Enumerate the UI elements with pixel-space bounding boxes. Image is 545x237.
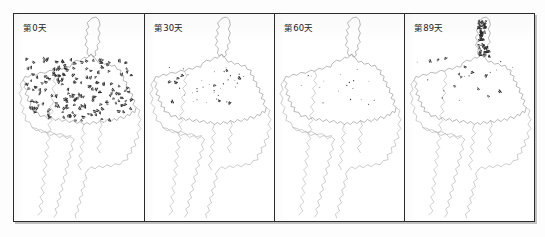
map-marker (496, 70, 497, 71)
map-marker (85, 67, 89, 71)
map-marker (350, 99, 351, 100)
map-marker (100, 107, 105, 112)
map-marker (444, 56, 448, 60)
marker-cluster (167, 67, 244, 105)
map-marker (27, 87, 30, 89)
map-marker (80, 81, 82, 84)
map-marker (72, 66, 76, 70)
map-marker (81, 116, 85, 119)
map-marker (197, 91, 198, 92)
map-marker (32, 89, 35, 92)
map-marker (30, 79, 32, 82)
map-marker (62, 106, 67, 111)
map-marker (196, 88, 197, 89)
map-marker (33, 101, 36, 103)
map-marker (184, 95, 185, 96)
map-marker (89, 76, 92, 80)
map-marker (124, 89, 127, 92)
map-panel: 第89天 (404, 14, 534, 221)
map-panel: 第30天 (144, 14, 274, 221)
map-marker (129, 98, 134, 102)
map-marker (346, 85, 347, 86)
map-marker (484, 73, 488, 78)
map-marker (36, 75, 39, 79)
map-marker (453, 85, 456, 88)
map-marker (173, 81, 177, 85)
map-marker (44, 80, 48, 83)
marker-cluster (24, 57, 133, 123)
map-panel: 第0天 (14, 14, 144, 221)
map-marker (458, 73, 460, 76)
map-marker (112, 97, 115, 99)
map-marker (100, 118, 103, 120)
map-marker (111, 88, 115, 93)
map-marker (353, 80, 354, 81)
map-marker (512, 67, 513, 68)
map-marker (417, 62, 418, 63)
map-marker (201, 80, 202, 81)
river-group (293, 71, 362, 215)
map-marker (109, 93, 112, 97)
figure-frame: 第0天 (13, 13, 535, 222)
map-graphic (14, 14, 144, 221)
map-marker (228, 101, 232, 105)
map-marker (94, 113, 97, 117)
map-marker (82, 95, 85, 99)
map-marker (65, 69, 69, 72)
map-marker (170, 99, 174, 104)
map-marker (99, 103, 103, 106)
map-marker (41, 102, 44, 106)
map-marker (32, 60, 36, 64)
map-marker (226, 101, 227, 102)
map-marker (24, 57, 28, 61)
map-marker (183, 68, 184, 69)
map-marker (442, 97, 443, 98)
map-marker (122, 110, 126, 114)
map-graphic (145, 14, 274, 221)
map-marker (30, 66, 32, 70)
map-marker (226, 67, 227, 68)
map-marker (94, 87, 98, 92)
map-marker (192, 92, 193, 93)
map-marker (490, 72, 491, 73)
map-marker (428, 59, 432, 63)
map-graphic (275, 14, 404, 221)
map-marker (73, 113, 77, 117)
map-marker (67, 114, 70, 118)
map-marker (443, 90, 444, 91)
map-marker (67, 87, 70, 91)
map-marker (176, 77, 180, 80)
map-marker (369, 81, 370, 82)
map-marker (84, 59, 88, 63)
map-marker (213, 85, 214, 86)
map-marker (43, 74, 47, 78)
map-marker (427, 79, 428, 80)
map-marker (216, 98, 217, 99)
map-marker (179, 88, 180, 89)
map-marker (126, 70, 129, 74)
map-marker (72, 62, 76, 65)
map-marker (234, 80, 235, 81)
panel-label: 第30天 (154, 23, 184, 33)
map-marker (237, 76, 241, 81)
map-marker (459, 75, 462, 78)
map-marker (92, 59, 95, 62)
map-marker (87, 113, 90, 115)
panel-label: 第89天 (414, 23, 444, 33)
map-marker (214, 90, 215, 91)
map-marker (469, 75, 470, 76)
map-marker (107, 61, 110, 64)
map-marker (70, 58, 72, 62)
map-marker (209, 84, 210, 85)
map-marker (98, 91, 102, 93)
map-marker (100, 65, 105, 70)
map-marker (340, 74, 341, 75)
map-marker (197, 99, 198, 100)
map-marker (97, 70, 99, 74)
map-marker (129, 107, 132, 111)
map-marker (117, 84, 120, 88)
map-marker (227, 79, 228, 80)
map-marker (301, 85, 302, 86)
map-marker (217, 99, 221, 102)
map-marker (311, 76, 312, 77)
